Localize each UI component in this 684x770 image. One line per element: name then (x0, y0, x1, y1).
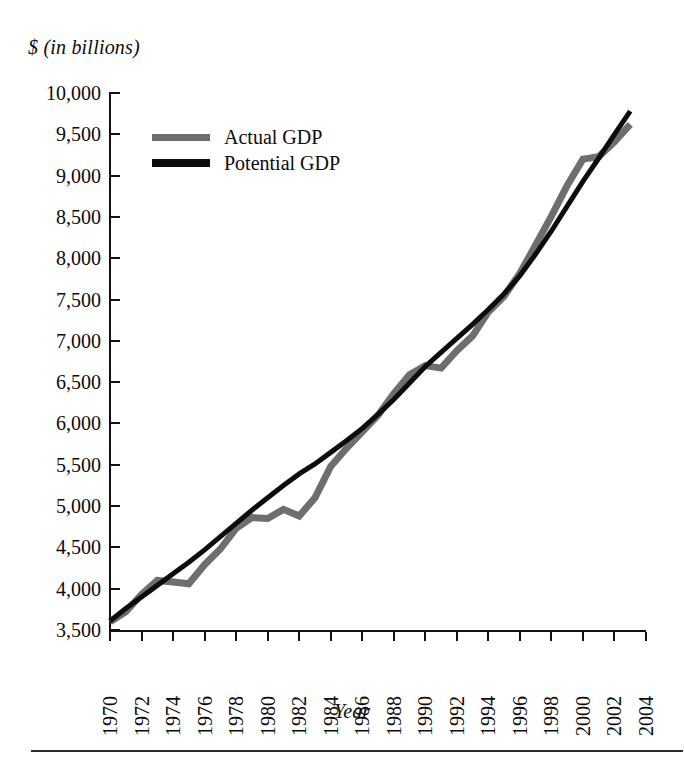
y-axis-tick-label: 3,500 (0, 620, 101, 640)
y-axis-tick-label-text: 6,500 (9, 372, 101, 392)
chart-legend: Actual GDPPotential GDP (152, 124, 340, 176)
legend-item-label: Potential GDP (224, 153, 340, 173)
y-axis-tick-label: 9,500 (0, 124, 101, 144)
gdp-chart-figure: $ (in billions) 10,0009,5009,0008,5008,0… (0, 0, 684, 770)
y-axis-tick-label: 9,000 (0, 166, 101, 186)
y-axis-tick-label-text: 10,000 (9, 83, 101, 103)
y-axis-tick-label: 7,000 (0, 331, 101, 351)
y-axis-tick-label: 5,000 (0, 496, 101, 516)
y-axis-tick-label: 10,000 (0, 83, 101, 103)
y-axis-tick-label-text: 8,000 (9, 248, 101, 268)
y-axis-tick-label: 5,500 (0, 455, 101, 475)
x-axis-tick-mark (487, 632, 489, 641)
x-axis-tick-mark (109, 632, 111, 641)
x-axis-tick-mark (456, 632, 458, 641)
legend-color-swatch (152, 134, 210, 141)
y-axis-tick-label-text: 4,500 (9, 537, 101, 557)
x-axis-tick-mark (613, 632, 615, 641)
x-axis-line (109, 630, 646, 632)
y-axis-tick-label: 4,500 (0, 537, 101, 557)
legend-color-swatch (152, 159, 210, 167)
x-axis-caption: Year (0, 700, 684, 723)
x-axis-tick-mark (519, 632, 521, 641)
y-axis-tick-label: 6,000 (0, 413, 101, 433)
x-axis-tick-mark (550, 632, 552, 641)
y-axis-tick-label-text: 4,000 (9, 579, 101, 599)
y-axis-tick-label-text: 9,500 (9, 124, 101, 144)
legend-item: Potential GDP (152, 150, 340, 176)
x-axis-tick-mark (298, 632, 300, 641)
x-axis-tick-mark (330, 632, 332, 641)
x-axis-tick-mark (141, 632, 143, 641)
y-axis-tick-label-text: 5,000 (9, 496, 101, 516)
legend-item-label: Actual GDP (224, 127, 322, 147)
series-line-potential-gdp (110, 111, 630, 621)
y-axis-caption: $ (in billions) (28, 36, 140, 59)
footer-divider (31, 750, 683, 752)
y-axis-tick-label-text: 5,500 (9, 455, 101, 475)
y-axis-tick-label-text: 3,500 (9, 620, 101, 640)
x-axis-tick-mark (393, 632, 395, 641)
y-axis-tick-label-text: 9,000 (9, 166, 101, 186)
y-axis-tick-label-text: 7,500 (9, 290, 101, 310)
y-axis-tick-label: 4,000 (0, 579, 101, 599)
x-axis-tick-mark (361, 632, 363, 641)
y-axis-tick-label-text: 8,500 (9, 207, 101, 227)
y-axis-tick-label: 8,000 (0, 248, 101, 268)
x-axis-tick-mark (235, 632, 237, 641)
legend-item: Actual GDP (152, 124, 340, 150)
y-axis-tick-label: 7,500 (0, 290, 101, 310)
x-axis-tick-mark (424, 632, 426, 641)
y-axis-tick-label-text: 7,000 (9, 331, 101, 351)
x-axis-tick-mark (267, 632, 269, 641)
x-axis-tick-mark (645, 632, 647, 641)
y-axis-tick-label-text: 6,000 (9, 413, 101, 433)
series-line-actual-gdp (110, 124, 630, 621)
x-axis-tick-mark (172, 632, 174, 641)
y-axis-tick-label: 8,500 (0, 207, 101, 227)
y-axis-tick-label: 6,500 (0, 372, 101, 392)
x-axis-tick-mark (582, 632, 584, 641)
x-axis-tick-mark (204, 632, 206, 641)
